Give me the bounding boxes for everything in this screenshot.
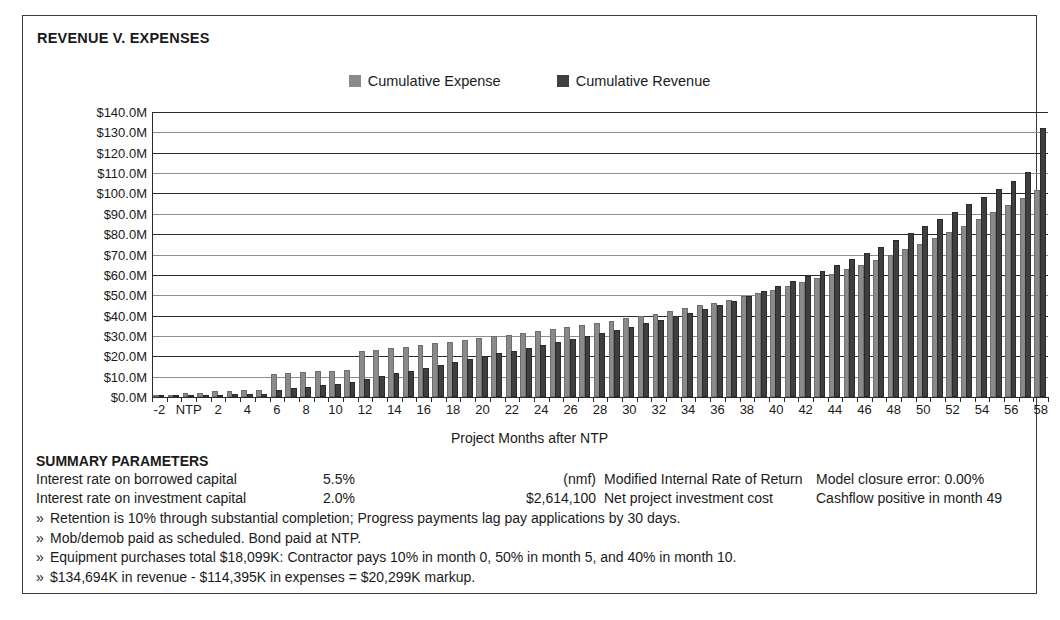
bar-group — [416, 112, 431, 397]
bullet-icon: » — [36, 548, 50, 568]
bar-cumulative-revenue — [1025, 172, 1031, 397]
y-axis-tick-label: $120.0M — [96, 145, 147, 160]
y-axis-tick-label: $90.0M — [104, 206, 147, 221]
x-axis-tick — [784, 397, 785, 402]
bar-cumulative-revenue — [981, 197, 987, 397]
bar-cumulative-revenue — [849, 259, 855, 397]
bar-group — [387, 112, 402, 397]
x-axis-tick — [534, 397, 535, 402]
bar-cumulative-revenue — [790, 281, 796, 397]
y-axis-tick-label: $80.0M — [104, 227, 147, 242]
x-axis-tick — [681, 397, 682, 402]
bar-group — [343, 112, 358, 397]
x-axis-tick — [431, 397, 432, 402]
x-axis-tick — [299, 397, 300, 402]
summary-note-text: $134,694K in revenue - $114,395K in expe… — [50, 569, 475, 585]
y-axis-tick-label: $40.0M — [104, 308, 147, 323]
x-axis-tick — [651, 397, 652, 402]
legend-item-revenue: Cumulative Revenue — [557, 73, 711, 89]
y-axis-tick-label: $30.0M — [104, 328, 147, 343]
bar-group — [1019, 112, 1034, 397]
bar-cumulative-revenue — [599, 333, 605, 397]
bar-cumulative-revenue — [408, 371, 414, 397]
y-axis-tick-label: $110.0M — [97, 166, 147, 181]
legend-item-expense: Cumulative Expense — [349, 73, 501, 89]
bar-group — [358, 112, 373, 397]
bar-group — [916, 112, 931, 397]
x-axis-tick — [945, 397, 946, 402]
bar-group — [607, 112, 622, 397]
x-axis-tick — [152, 397, 153, 402]
y-axis-tick-label: $130.0M — [96, 125, 147, 140]
bar-cumulative-revenue — [937, 219, 943, 397]
bar-group — [725, 112, 740, 397]
bar-group — [798, 112, 813, 397]
x-axis-tick-label: 32 — [652, 402, 666, 417]
bar-group — [563, 112, 578, 397]
bar-group — [593, 112, 608, 397]
bar-group — [989, 112, 1004, 397]
summary-row-status: Cashflow positive in month 49 — [816, 490, 1002, 506]
bar-cumulative-revenue — [908, 233, 914, 397]
bar-group — [270, 112, 285, 397]
x-axis-tick — [578, 397, 579, 402]
x-axis-tick — [754, 397, 755, 402]
summary-row: Interest rate on borrowed capital5.5%(nm… — [36, 471, 1036, 490]
y-axis-labels: $0.0M$10.0M$20.0M$30.0M$40.0M$50.0M$60.0… — [63, 112, 147, 397]
x-axis-tick-label: 44 — [828, 402, 842, 417]
x-axis-tick — [960, 397, 961, 402]
legend-label-expense: Cumulative Expense — [368, 73, 501, 89]
summary-note: »Equipment purchases total $18,099K: Con… — [36, 548, 1036, 568]
bar-group — [666, 112, 681, 397]
x-axis-tick — [416, 397, 417, 402]
summary-row-value-secondary: (nmf) — [436, 471, 596, 487]
x-axis-tick — [240, 397, 241, 402]
summary-row-value-secondary: $2,614,100 — [436, 490, 596, 506]
bar-group — [695, 112, 710, 397]
x-axis-tick-label: 8 — [303, 402, 310, 417]
summary-row: Interest rate on investment capital2.0%$… — [36, 490, 1036, 509]
x-axis-tick — [798, 397, 799, 402]
x-axis-tick-label: 20 — [475, 402, 489, 417]
x-axis-tick — [460, 397, 461, 402]
x-axis-tick-label: 48 — [887, 402, 901, 417]
report-panel: REVENUE V. EXPENSES Cumulative ExpenseCu… — [22, 15, 1037, 594]
bar-group — [769, 112, 784, 397]
bar-cumulative-revenue — [1040, 128, 1046, 397]
bar-cumulative-revenue — [878, 247, 884, 397]
bar-cumulative-revenue — [452, 362, 458, 397]
x-axis-tick — [725, 397, 726, 402]
bar-cumulative-revenue — [423, 368, 429, 397]
x-axis-tick-label: 18 — [446, 402, 460, 417]
x-axis-tick — [886, 397, 887, 402]
legend-swatch-revenue — [557, 75, 569, 87]
x-axis-tick-label: 42 — [798, 402, 812, 417]
bar-group — [901, 112, 916, 397]
bar-group — [710, 112, 725, 397]
bar-cumulative-revenue — [438, 365, 444, 397]
x-axis-tick-label: -2 — [154, 402, 166, 417]
summary-row-value-primary: 2.0% — [323, 490, 355, 506]
bar-group — [372, 112, 387, 397]
x-axis-tick — [975, 397, 976, 402]
bar-cumulative-revenue — [687, 313, 693, 397]
bar-group — [460, 112, 475, 397]
y-axis-tick-label: $60.0M — [104, 267, 147, 282]
x-axis-tick — [813, 397, 814, 402]
plot-inner — [152, 112, 1048, 397]
x-axis-tick — [563, 397, 564, 402]
x-axis-tick — [637, 397, 638, 402]
x-axis-tick-label: NTP — [176, 402, 202, 417]
x-axis-tick-label: 58 — [1033, 402, 1047, 417]
bar-cumulative-revenue — [585, 336, 591, 397]
bar-group — [402, 112, 417, 397]
bar-cumulative-revenue — [276, 390, 282, 397]
x-axis-tick-label: 2 — [214, 402, 221, 417]
bar-group — [930, 112, 945, 397]
x-axis-tick — [255, 397, 256, 402]
bar-group — [945, 112, 960, 397]
bar-group — [857, 112, 872, 397]
bar-cumulative-revenue — [834, 265, 840, 397]
bar-cumulative-revenue — [570, 339, 576, 397]
bar-group — [886, 112, 901, 397]
